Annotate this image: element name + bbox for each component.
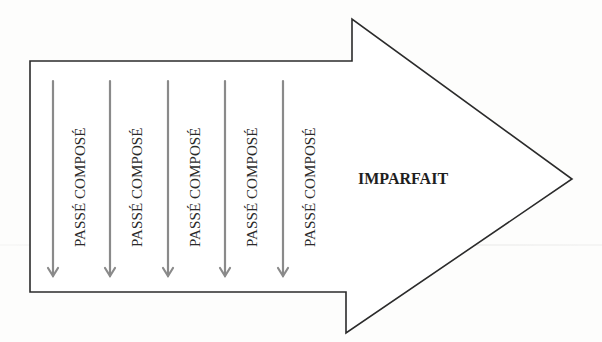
passe-compose-label-2: PASSÉ COMPOSÉ xyxy=(129,102,146,247)
passe-compose-label-1: PASSÉ COMPOSÉ xyxy=(72,102,89,247)
big-right-arrow-icon xyxy=(30,19,572,333)
diagram-canvas: PASSÉ COMPOSÉ PASSÉ COMPOSÉ PASSÉ COMPOS… xyxy=(0,0,602,342)
passe-compose-label-3: PASSÉ COMPOSÉ xyxy=(187,102,204,247)
imparfait-label: IMPARFAIT xyxy=(358,170,448,188)
passe-compose-label-5: PASSÉ COMPOSÉ xyxy=(302,102,319,247)
passe-compose-label-4: PASSÉ COMPOSÉ xyxy=(244,102,261,247)
main-arrow-shape xyxy=(0,0,602,342)
